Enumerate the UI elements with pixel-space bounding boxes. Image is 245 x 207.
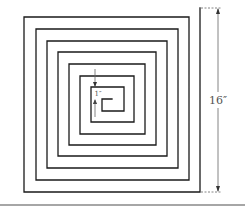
square-spiral — [24, 8, 200, 192]
arrow-up-icon — [216, 8, 220, 14]
spiral-diagram: 16″ 1″ — [0, 0, 245, 207]
height-dimension: 16″ — [201, 8, 227, 192]
spacing-label: 1″ — [94, 90, 101, 98]
height-label: 16″ — [209, 94, 227, 107]
arrow-down-icon — [93, 82, 97, 87]
arrow-down-icon — [216, 186, 220, 192]
